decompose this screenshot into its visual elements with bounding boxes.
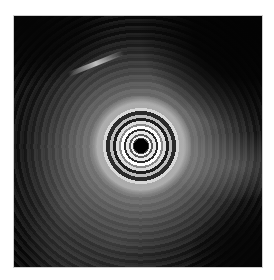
ultrasound-image xyxy=(13,15,263,268)
concentric-rings xyxy=(91,96,191,196)
